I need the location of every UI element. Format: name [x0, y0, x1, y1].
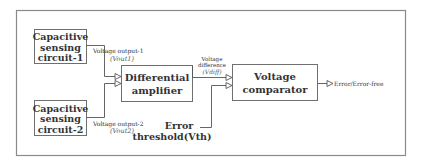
arrow-threshold-icon: [226, 83, 232, 89]
arrow-vout2-icon: [115, 81, 121, 87]
sensor1-line1: Capacitive: [33, 31, 88, 42]
vout1-symbol: (Vout1): [110, 55, 134, 63]
vout1-label: Voltage output-1: [92, 47, 143, 55]
sensor1-line3: circuit-1: [38, 52, 84, 63]
diff-amp-line1: Differential: [125, 72, 190, 83]
sensor2-line1: Capacitive: [33, 103, 88, 114]
output-label: Error/Error-free: [334, 80, 384, 87]
threshold-label-line2: threshold(Vth): [133, 131, 212, 142]
vdiff-symbol: (Vdiff): [202, 68, 222, 76]
arrow-vout1-icon: [115, 74, 121, 80]
voltage-comparator-block: Voltage comparator: [233, 65, 318, 101]
sensor2-line2: sensing: [40, 113, 81, 124]
comparator-line2: comparator: [242, 84, 308, 95]
threshold-wire: [200, 86, 226, 128]
arrow-vdiff-icon: [226, 75, 232, 81]
capacitive-sensing-circuit-1-block: Capacitive sensing circuit-1: [33, 30, 88, 64]
vout2-symbol: (Vout2): [110, 127, 134, 135]
capacitive-sensing-circuit-2-block: Capacitive sensing circuit-2: [33, 101, 88, 136]
arrow-output-icon: [327, 81, 333, 87]
sensor2-line3: circuit-2: [38, 124, 84, 135]
comparator-line1: Voltage: [253, 71, 296, 82]
vout2-wire: [87, 84, 116, 118]
differential-amplifier-block: Differential amplifier: [122, 66, 193, 102]
diff-amp-line2: amplifier: [132, 85, 183, 96]
block-diagram: Capacitive sensing circuit-1 Capacitive …: [0, 0, 423, 163]
sensor1-line2: sensing: [40, 42, 81, 53]
threshold-label-line1: Error: [165, 120, 195, 131]
